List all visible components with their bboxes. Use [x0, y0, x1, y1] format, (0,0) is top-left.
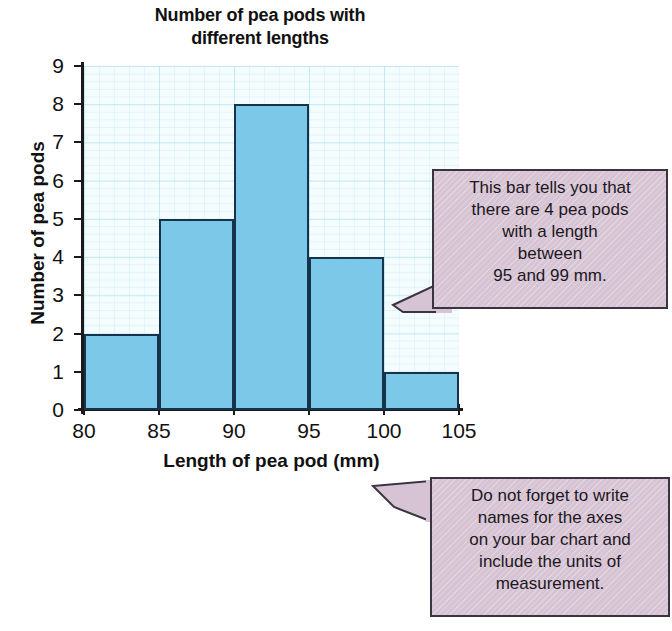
y-tick-label-9: 9: [38, 55, 64, 76]
callout-axes-note: Do not forget to write names for the axe…: [430, 477, 670, 617]
callout-bar-line-5: 95 and 99 mm.: [442, 265, 658, 287]
bar-80-85: [84, 334, 159, 410]
x-tick-label-90: 90: [204, 420, 264, 441]
callout-bar-line-1: This bar tells you that: [442, 177, 658, 199]
y-tick-mark-3: [74, 294, 84, 296]
x-tick-label-100: 100: [354, 420, 414, 441]
y-tick-mark-9: [74, 65, 84, 67]
callout-bar-line-4: between: [442, 243, 658, 265]
bar-85-90: [159, 219, 234, 410]
y-tick-mark-2: [74, 333, 84, 335]
callout-bar-line-3: with a length: [442, 221, 658, 243]
y-tick-mark-6: [74, 180, 84, 182]
callout-axes-line-4: include the units of: [440, 551, 660, 573]
callout-axes-line-5: measurement.: [440, 573, 660, 595]
bar-90-95: [234, 104, 309, 410]
x-tick-label-85: 85: [129, 420, 189, 441]
callout-axes-line-3: on your bar chart and: [440, 529, 660, 551]
callout-axes-line-1: Do not forget to write: [440, 485, 660, 507]
y-tick-mark-7: [74, 141, 84, 143]
y-tick-mark-8: [74, 103, 84, 105]
chart-page: Number of pea pods with different length…: [0, 0, 672, 631]
bar-95-100: [309, 257, 384, 410]
callout-axes-tail: [372, 479, 436, 525]
callout-bar-line-2: there are 4 pea pods: [442, 199, 658, 221]
y-tick-label-1: 1: [38, 361, 64, 382]
chart-title-line-1: Number of pea pods with: [60, 4, 460, 27]
chart-title-line-2: different lengths: [60, 27, 460, 50]
callout-axes-line-2: names for the axes: [440, 507, 660, 529]
chart-title: Number of pea pods with different length…: [60, 4, 460, 50]
y-tick-mark-5: [74, 218, 84, 220]
x-tick-label-80: 80: [54, 420, 114, 441]
x-tick-label-95: 95: [279, 420, 339, 441]
bar-100-105: [384, 372, 459, 410]
x-tick-label-105: 105: [429, 420, 489, 441]
y-tick-mark-1: [74, 371, 84, 373]
x-axis-title: Length of pea pod (mm): [84, 450, 459, 472]
callout-bar-note: This bar tells you that there are 4 pea …: [432, 169, 668, 309]
y-axis-title: Number of pea pods: [27, 103, 49, 363]
y-tick-label-0: 0: [38, 399, 64, 420]
y-tick-mark-4: [74, 256, 84, 258]
